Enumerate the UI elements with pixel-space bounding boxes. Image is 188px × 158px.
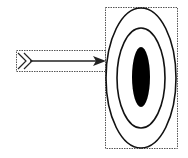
arrow-target-diagram [0,0,188,158]
target-bullseye [132,47,150,107]
bullseye-icon [106,8,178,149]
arrow-icon [18,53,106,69]
arrow-group [17,51,107,72]
